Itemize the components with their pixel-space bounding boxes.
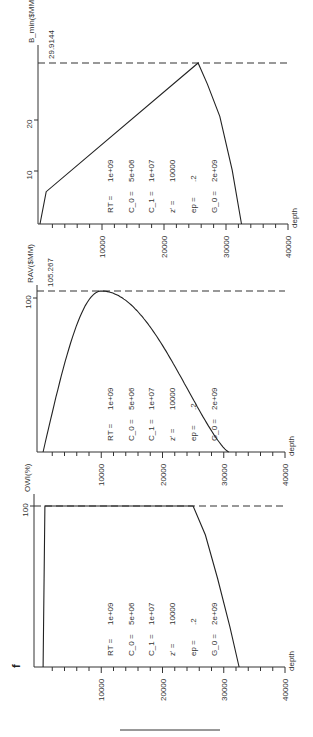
figure-canvas: 10000200003000040000depth1020B_min($MM)2… <box>0 0 313 737</box>
rav-panel <box>33 285 285 458</box>
param-value: 2e+09 <box>210 159 219 182</box>
param-value: 10000 <box>168 387 177 410</box>
value-tick-label: 100 <box>24 295 33 309</box>
param-label: ep = <box>189 425 198 441</box>
param-label: RT = <box>106 423 115 441</box>
param-label: G_0 = <box>210 634 219 656</box>
param-label: z' = <box>168 200 177 213</box>
param-label: z' = <box>168 643 177 656</box>
max-value-label: 29.9144 <box>47 30 56 59</box>
value-axis-label: B_min($MM) <box>27 0 36 43</box>
depth-axis-label: depth <box>287 651 296 671</box>
param-value: 2e+09 <box>210 387 219 410</box>
param-value: 1e+07 <box>147 387 156 410</box>
depth-tick-label: 30000 <box>222 235 231 258</box>
depth-tick-label: 10000 <box>98 235 107 258</box>
value-tick-label: 100 <box>21 503 30 517</box>
value-tick-label: 10 <box>25 170 34 179</box>
param-label: C_1 = <box>147 191 156 213</box>
max-value-label: 105.267 <box>46 258 55 287</box>
param-value: 1e+09 <box>106 602 115 625</box>
depth-axis-label: depth <box>287 436 296 456</box>
depth-tick-label: 10000 <box>97 678 106 701</box>
param-value: 5e+06 <box>127 159 136 182</box>
param-value: 10000 <box>168 159 177 182</box>
param-label: ep = <box>189 197 198 213</box>
param-value: 1e+07 <box>147 602 156 625</box>
param-label: z' = <box>168 428 177 441</box>
depth-tick-label: 20000 <box>159 678 168 701</box>
depth-tick-label: 20000 <box>160 235 169 258</box>
param-label: G_0 = <box>210 191 219 213</box>
param-label: G_0 = <box>210 419 219 441</box>
value-axis-label: RAV($MM) <box>26 244 35 283</box>
depth-tick-label: 40000 <box>284 235 293 258</box>
param-label: C_1 = <box>147 634 156 656</box>
depth-tick-label: 40000 <box>281 678 290 701</box>
param-value: .2 <box>189 175 198 182</box>
param-value: .2 <box>189 403 198 410</box>
param-label: C_0 = <box>127 419 136 441</box>
param-value: 2e+09 <box>210 602 219 625</box>
depth-tick-label: 30000 <box>220 678 229 701</box>
depth-axis-label: depth <box>290 208 299 228</box>
b-min-panel <box>34 45 288 230</box>
value-tick-label: 20 <box>25 119 34 128</box>
param-value: 1e+09 <box>106 387 115 410</box>
param-label: ep = <box>189 640 198 656</box>
param-label: C_1 = <box>147 419 156 441</box>
depth-tick-label: 30000 <box>220 463 229 486</box>
param-label: RT = <box>106 638 115 656</box>
param-value: 10000 <box>168 602 177 625</box>
param-value: 1e+09 <box>106 159 115 182</box>
param-value: 5e+06 <box>127 387 136 410</box>
depth-tick-label: 40000 <box>281 463 290 486</box>
param-value: 1e+07 <box>147 159 156 182</box>
figure-label: f <box>10 664 22 668</box>
depth-tick-label: 10000 <box>97 463 106 486</box>
param-label: RT = <box>106 195 115 213</box>
param-value: .2 <box>189 618 198 625</box>
param-value: 5e+06 <box>127 602 136 625</box>
value-axis-label: OWI(%) <box>23 463 32 492</box>
owi-panel <box>30 494 285 673</box>
param-label: C_0 = <box>127 634 136 656</box>
param-label: C_0 = <box>127 191 136 213</box>
depth-tick-label: 20000 <box>159 463 168 486</box>
